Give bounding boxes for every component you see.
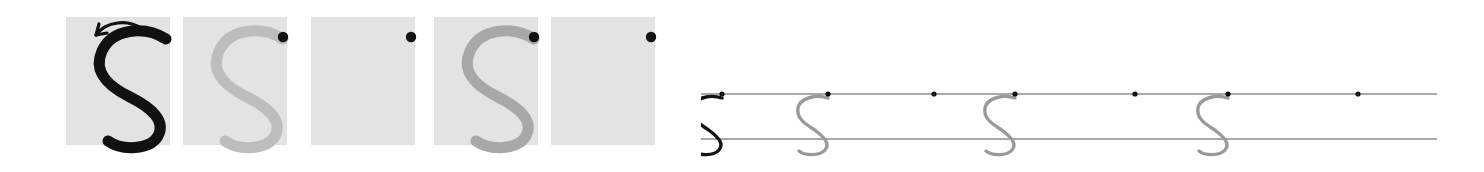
model-letter-box-1[interactable]: [66, 17, 170, 145]
letter-s-glyph: [798, 96, 828, 154]
start-dot: [1132, 91, 1137, 96]
practice-box-background: [66, 17, 170, 145]
letter-s-glyph: [701, 96, 722, 154]
stroke-direction-arrow: [701, 97, 708, 111]
letter-s-glyph: [1198, 96, 1228, 154]
start-dot: [719, 91, 724, 96]
start-dot: [931, 91, 936, 96]
start-dot: [825, 91, 830, 96]
rule-blank-slot-5[interactable]: [1132, 91, 1137, 96]
rule-trace-letter-4[interactable]: [985, 91, 1018, 154]
ruled-writing-strip: [701, 0, 1441, 172]
start-dot: [1225, 91, 1230, 96]
rule-model-letter-1[interactable]: [701, 91, 725, 154]
practice-box-background: [434, 17, 538, 145]
ruled-strip-canvas: [701, 0, 1441, 172]
blank-practice-box-5[interactable]: [551, 17, 655, 145]
trace-letter-box-4[interactable]: [434, 17, 538, 145]
rule-trace-letter-6[interactable]: [1198, 91, 1231, 154]
trace-letter-box-2[interactable]: [183, 17, 287, 145]
handwriting-worksheet: [0, 0, 1484, 172]
start-dot: [1012, 91, 1017, 96]
rule-trace-letter-2[interactable]: [798, 91, 831, 154]
rule-blank-slot-3[interactable]: [931, 91, 936, 96]
practice-box-background: [183, 17, 287, 145]
practice-box-section: [0, 0, 700, 172]
practice-box-background: [311, 17, 415, 145]
practice-box-background: [551, 17, 655, 145]
letter-s-glyph: [985, 96, 1015, 154]
blank-practice-box-3[interactable]: [311, 17, 415, 145]
start-dot: [1355, 91, 1360, 96]
rule-blank-slot-7[interactable]: [1355, 91, 1360, 96]
